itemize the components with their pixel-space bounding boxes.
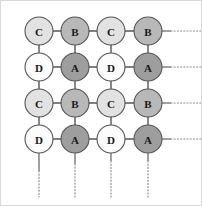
node-circle bbox=[97, 53, 125, 81]
lattice-node-d[interactable]: D bbox=[97, 125, 125, 153]
lattice-node-d[interactable]: D bbox=[25, 125, 53, 153]
lattice-node-d[interactable]: D bbox=[97, 53, 125, 81]
lattice-node-b[interactable]: B bbox=[61, 89, 89, 117]
lattice-node-c[interactable]: C bbox=[97, 89, 125, 117]
node-circle bbox=[97, 125, 125, 153]
node-circle bbox=[25, 17, 53, 45]
node-circle bbox=[25, 53, 53, 81]
edges-layer bbox=[39, 31, 148, 139]
nodes-layer: CBCBDADACBCBDADA bbox=[25, 17, 162, 153]
lattice-node-b[interactable]: B bbox=[134, 89, 162, 117]
node-circle bbox=[61, 53, 89, 81]
node-circle bbox=[25, 89, 53, 117]
node-circle bbox=[134, 17, 162, 45]
lattice-node-a[interactable]: A bbox=[134, 53, 162, 81]
node-circle bbox=[97, 89, 125, 117]
node-circle bbox=[97, 17, 125, 45]
lattice-node-a[interactable]: A bbox=[134, 125, 162, 153]
lattice-node-b[interactable]: B bbox=[134, 17, 162, 45]
node-circle bbox=[61, 17, 89, 45]
node-circle bbox=[134, 125, 162, 153]
lattice-node-c[interactable]: C bbox=[25, 17, 53, 45]
node-circle bbox=[134, 53, 162, 81]
node-circle bbox=[25, 125, 53, 153]
lattice-diagram: CBCBDADACBCBDADA bbox=[1, 1, 202, 206]
node-circle bbox=[134, 89, 162, 117]
lattice-node-a[interactable]: A bbox=[61, 125, 89, 153]
node-circle bbox=[61, 89, 89, 117]
lattice-node-a[interactable]: A bbox=[61, 53, 89, 81]
lattice-figure-frame: CBCBDADACBCBDADA bbox=[0, 0, 202, 206]
node-circle bbox=[61, 125, 89, 153]
lattice-node-c[interactable]: C bbox=[25, 89, 53, 117]
lattice-node-b[interactable]: B bbox=[61, 17, 89, 45]
lattice-node-c[interactable]: C bbox=[97, 17, 125, 45]
lattice-node-d[interactable]: D bbox=[25, 53, 53, 81]
